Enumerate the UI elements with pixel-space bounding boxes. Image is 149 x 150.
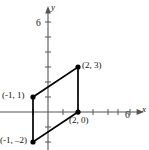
plot-canvas <box>0 0 149 150</box>
y-axis-tick-label-6: 6 <box>36 19 41 29</box>
point-label-neg1-neg2: (-1, –2) <box>0 136 27 145</box>
coordinate-plane-figure: y x 6 6 (2, 3) (-1, 1) (2, 0) (-1, –2) <box>0 0 149 150</box>
x-axis-label: x <box>142 105 146 114</box>
point-label-neg1-1: (-1, 1) <box>2 91 25 100</box>
x-axis-tick-label-6: 6 <box>125 111 130 121</box>
vertex-point-neg1-1 <box>30 94 35 99</box>
vertex-point-2-3 <box>75 64 80 69</box>
y-axis-label: y <box>51 3 55 12</box>
point-label-2-3: (2, 3) <box>82 61 102 70</box>
point-label-2-0: (2, 0) <box>69 116 89 125</box>
vertex-point-2-0 <box>75 109 80 114</box>
vertex-points <box>30 64 80 144</box>
parallelogram-shape <box>33 67 78 142</box>
vertex-point-neg1-neg2 <box>30 139 35 144</box>
axes-group <box>0 6 144 150</box>
